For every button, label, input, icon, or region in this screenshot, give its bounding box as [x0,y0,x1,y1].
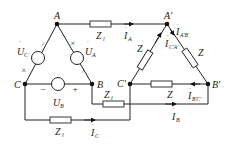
source-delta: / × × / − + · U C · U A · U B [17,24,96,109]
label-node-a: A [53,10,61,21]
svg-text:Z: Z [104,89,110,100]
label-ua: · U A [85,39,96,58]
current-arrow-iab-icon [170,29,174,35]
label-ub: · U B [53,91,64,109]
svg-text:C: C [24,52,29,58]
label-uc: · U C [17,39,29,58]
svg-text:B′C′: B′C′ [192,96,202,102]
svg-text:A′B′: A′B′ [179,32,190,38]
svg-text:l: l [111,95,113,101]
svg-text:Z: Z [55,126,61,137]
label-zl-b: Z l [104,89,113,101]
node-b [90,82,95,87]
line-impedance-b-icon [103,101,124,107]
label-zl-a: Z l [96,30,105,42]
svg-text:l: l [103,36,105,42]
label-ia: · I A [123,25,132,42]
label-node-c-prime: C′ [117,78,127,89]
label-z-ca: Z [137,43,143,54]
node-b-prime [206,82,211,87]
voltage-source-uc-icon [32,52,45,65]
svg-text:A: A [127,36,132,42]
voltage-source-ua-icon [71,52,84,65]
node-c [23,82,28,87]
line-impedance-a-icon [90,21,111,27]
label-z-ab: Z [198,47,204,58]
svg-text:C′A′: C′A′ [169,44,179,50]
node-a-prime [165,22,170,27]
line-impedance-c-icon [50,117,71,123]
minus-mark-ub: − [40,84,46,94]
cross-mark-uc: × [21,66,26,75]
svg-text:·: · [87,39,89,45]
cross-mark-ua: × [70,39,75,48]
current-arrow-ica-icon [155,33,161,43]
svg-text:C: C [95,133,100,139]
nodes: A C B A′ C′ B′ [14,10,221,90]
svg-text:A: A [91,52,96,58]
voltage-source-ub-icon [52,78,65,91]
load-impedance-ab-icon [182,48,198,68]
label-node-a-prime: A′ [163,10,173,21]
svg-text:B: B [176,117,180,123]
svg-text:Z: Z [96,30,102,41]
label-node-b-prime: B′ [212,79,221,90]
label-ib: · I B [171,106,180,123]
load-impedance-bc-icon [151,81,172,87]
three-phase-circuit-diagram: / × × / − + · U C · U A · U B Z l [0,0,230,145]
node-c-prime [128,82,133,87]
label-zl-c: Z l [55,126,64,138]
svg-text:·: · [19,39,21,45]
svg-text:B: B [60,103,64,109]
label-z-bc: Z [167,89,173,100]
label-node-b: B [97,79,103,90]
load-delta: Z Z Z · I A′B′ · I C′A′ · I B′C′ [130,22,208,102]
label-ibc: · I B′C′ [187,86,202,102]
node-a [55,22,60,27]
label-iab: · I A′B′ [175,22,190,38]
plus-mark-ub: + [72,84,78,94]
label-ic: · I C [90,122,100,139]
svg-text:l: l [62,132,64,138]
label-node-c: C [14,79,21,90]
